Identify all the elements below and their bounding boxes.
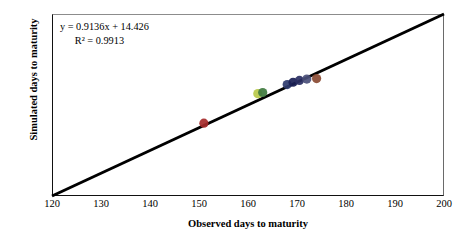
r-squared-value: R² = 0.9913 [60, 34, 149, 48]
x-tick-label: 140 [130, 199, 170, 210]
x-tick-label: 120 [32, 199, 72, 210]
regression-annotation: y = 0.9136x + 14.426 R² = 0.9913 [60, 20, 149, 47]
x-tick-label: 190 [375, 199, 415, 210]
x-tick-label: 130 [81, 199, 121, 210]
chart-figure: Simulated days to maturity Observed days… [0, 0, 462, 242]
regression-equation: y = 0.9136x + 14.426 [60, 20, 149, 34]
x-tick-label: 160 [228, 199, 268, 210]
x-tick-label: 180 [326, 199, 366, 210]
x-tick-label: 170 [277, 199, 317, 210]
x-tick-label: 150 [179, 199, 219, 210]
x-tick-label: 200 [424, 199, 462, 210]
y-axis-title: Simulated days to maturity [28, 0, 39, 175]
x-axis-title: Observed days to maturity [52, 218, 444, 229]
